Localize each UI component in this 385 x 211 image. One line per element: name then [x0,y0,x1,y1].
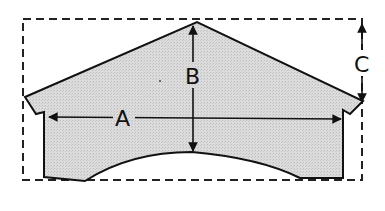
roof-diagram: A B C [0,0,385,211]
label-b: B [185,64,200,89]
gable-shape [25,22,363,181]
label-a: A [115,106,130,131]
stray-mark [159,80,161,82]
label-c: C [354,52,369,77]
